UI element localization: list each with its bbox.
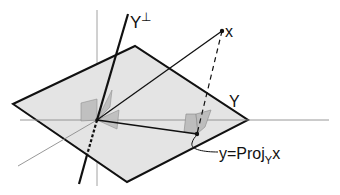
orthogonal-projection-diagram: Y⊥ x Y y=ProjYx xyxy=(0,0,340,195)
point-x xyxy=(220,29,224,33)
label-y-perp: Y⊥ xyxy=(130,10,151,32)
origin-point xyxy=(95,118,99,122)
subspace-plane xyxy=(13,46,248,182)
right-angle-marker-proj-a xyxy=(184,114,198,133)
right-angle-marker-origin-a xyxy=(81,99,97,121)
label-subspace-y: Y xyxy=(229,93,240,110)
label-projection: y=ProjYx xyxy=(219,145,280,166)
label-x: x xyxy=(225,23,233,40)
perp-line-lower xyxy=(79,155,87,184)
